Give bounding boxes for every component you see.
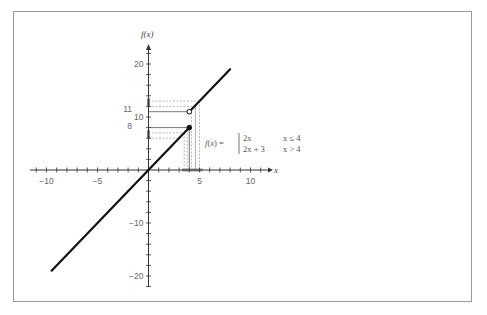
piecewise-function-chart: −10−55102010−10−20118f(x)x f(x) = 2x x ≤…: [0, 0, 487, 315]
y-tick-label: 10: [134, 112, 144, 122]
open-endpoint: [187, 109, 192, 114]
closed-endpoint: [187, 125, 192, 130]
y-tick-label: −20: [129, 271, 144, 281]
y-axis-label: f(x): [141, 29, 154, 39]
y-axis-arrow-icon: [146, 44, 151, 50]
x-tick-label: 10: [246, 176, 256, 186]
x-axis-arrow-icon: [268, 168, 273, 173]
equation-annotation: f(x) = 2x x ≤ 4 2x + 3 x > 4: [205, 133, 301, 154]
value-label-11: 11: [123, 104, 132, 114]
case-1-condition: x ≤ 4: [283, 133, 301, 143]
value-label-8: 8: [127, 121, 132, 131]
y-tick-label: 20: [134, 59, 144, 69]
function-line: [52, 128, 190, 271]
case-2-expr: 2x + 3: [243, 144, 265, 154]
axis-labels: −10−55102010−10−20118f(x)x: [39, 29, 278, 281]
x-tick-label: −5: [93, 176, 103, 186]
function-line: [189, 69, 230, 111]
equation-lhs: f(x) =: [205, 138, 224, 148]
case-2-condition: x > 4: [283, 144, 301, 154]
guide-lines: [147, 98, 203, 171]
y-tick-label: −10: [129, 218, 144, 228]
case-1-expr: 2x: [243, 133, 252, 143]
x-axis-label: x: [273, 165, 278, 175]
x-tick-label: 5: [197, 176, 202, 186]
x-tick-label: −10: [39, 176, 54, 186]
